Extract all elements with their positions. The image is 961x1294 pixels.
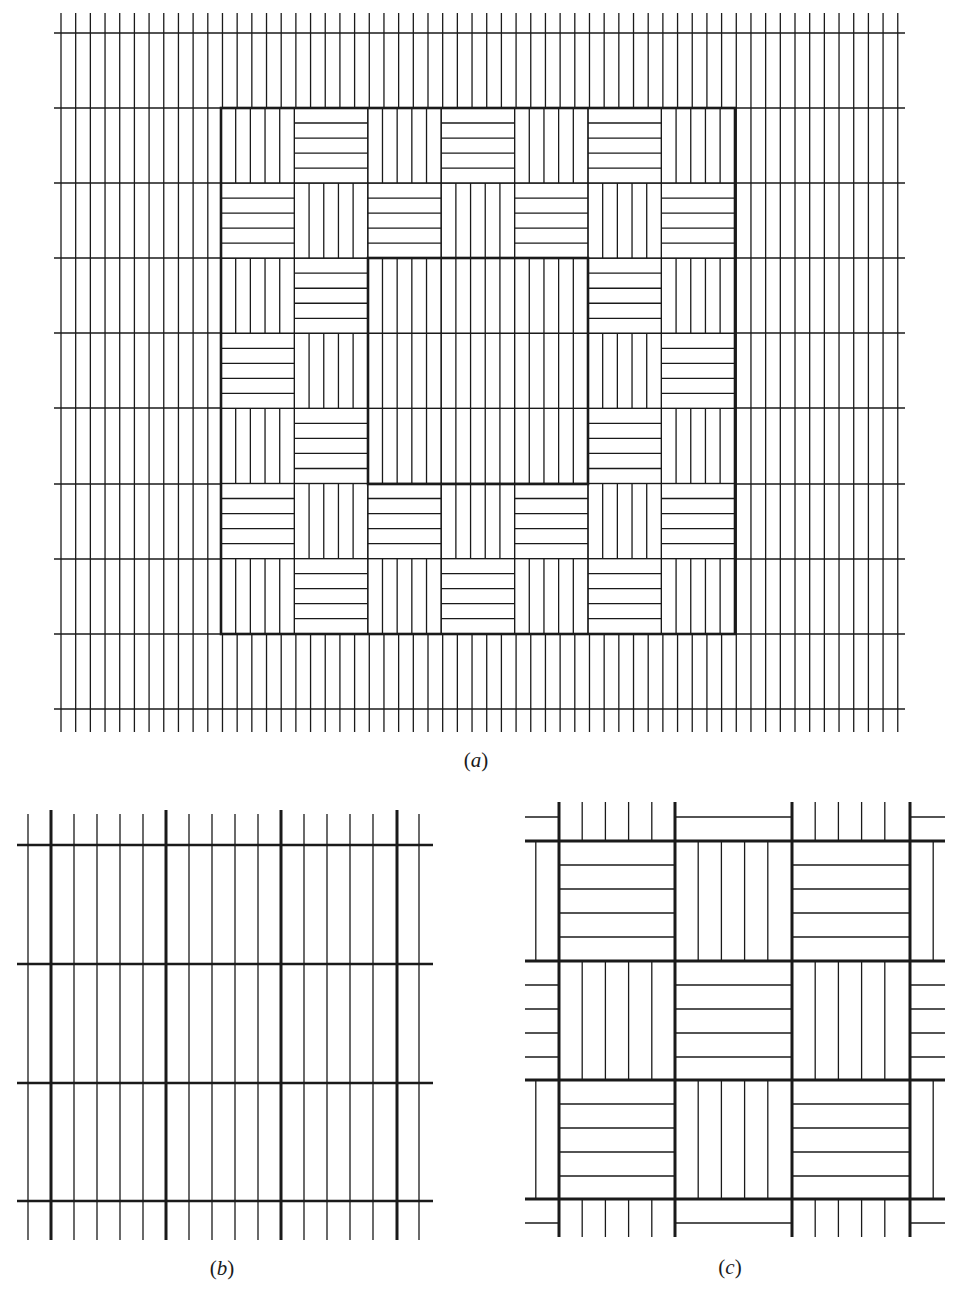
- caption-a: (a): [464, 748, 489, 773]
- panel-c-basket-weave: [525, 802, 945, 1237]
- panel-a-checkerboard-field: [54, 13, 905, 732]
- parquet-pattern-figure: [0, 0, 961, 1294]
- caption-c: (c): [718, 1255, 741, 1280]
- caption-b: (b): [210, 1256, 235, 1281]
- panel-b-strip-grid: [17, 810, 433, 1240]
